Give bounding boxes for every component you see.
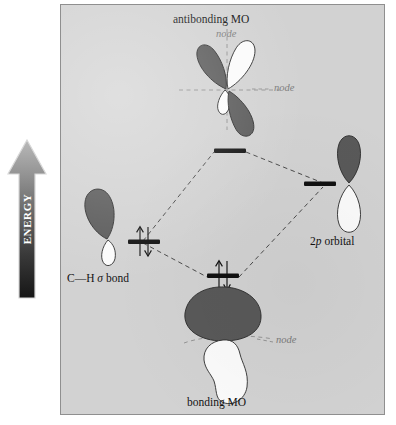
diagram-root: ENERGY [0,0,396,425]
level-bar-2p-orbital [304,182,336,187]
label-node-antibonding-vertical: node [216,28,236,39]
label-ch-sigma-bond: C—H σ bond [67,272,129,284]
label-antibonding-mo: antibonding MO [173,13,249,25]
lobe-bottom-light-2p [337,185,360,232]
lobe-lower-right-dark-antibonding [227,89,255,138]
correlation-lines [143,152,323,277]
orbital-2p [337,136,360,233]
label-node-antibonding-horizontal: node [274,82,294,93]
correlation-line-2p-bonding [239,187,323,277]
label-node-bonding: node [276,334,296,345]
lobe-upper-left-dark-antibonding [195,41,229,93]
lobe-upper-right-light-antibonding [225,38,257,92]
orbital-bonding-mo [184,287,273,404]
correlation-line-2p-antibonding [246,152,323,183]
orbital-antibonding-mo [179,29,280,138]
label-2p-suffix: orbital [322,235,355,247]
energy-level-bars [128,149,336,279]
label-ch-sigma-bond-suffix: bond [103,272,129,284]
level-bar-antibonding-mo [214,149,246,154]
orbital-ch-sigma [83,188,117,266]
lobe-small-light-ch-sigma [101,240,116,266]
lobe-top-dark-2p [337,136,360,183]
correlation-line-sigma-bonding [143,243,207,277]
lobe-upper-dark-bonding [185,287,261,341]
level-bar-bonding-mo [207,274,239,279]
node-leader-bonding [257,339,273,342]
energy-axis-arrow [6,138,48,300]
label-2p-orbital: 2p orbital [310,235,354,247]
level-bar-ch-sigma-bond [128,240,160,245]
energy-arrow-shape [8,140,46,298]
lobe-large-dark-ch-sigma [83,188,117,241]
diagram-panel: antibonding MO node node node C—H σ bond… [60,4,385,415]
correlation-line-sigma-antibonding [143,152,214,241]
diagram-canvas [61,5,386,416]
label-ch-sigma-bond-prefix: C—H [67,272,97,284]
lobe-lower-light-bonding [204,340,247,404]
label-bonding-mo: bonding MO [187,396,246,408]
